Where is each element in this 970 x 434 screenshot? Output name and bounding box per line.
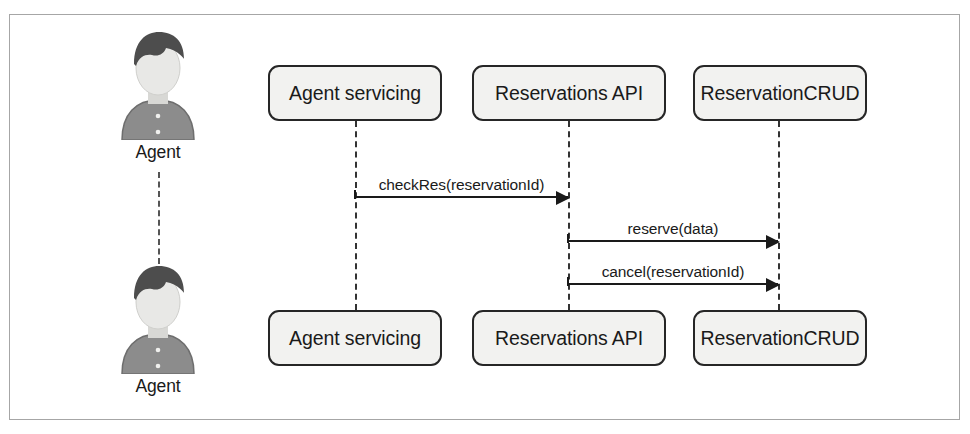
- participant-label: Reservations API: [495, 82, 643, 105]
- sequence-diagram: Agent Agent Agent servicing Reservations…: [0, 0, 970, 434]
- participant-box-reservations-api-top[interactable]: Reservations API: [472, 65, 666, 121]
- message-label: cancel(reservationId): [568, 263, 778, 281]
- message-label: checkRes(reservationId): [355, 176, 568, 194]
- participant-box-agent-servicing-top[interactable]: Agent servicing: [268, 65, 442, 121]
- actor-bottom: Agent: [110, 262, 206, 397]
- message-check-res: checkRes(reservationId): [355, 196, 568, 198]
- participant-label: ReservationCRUD: [701, 327, 860, 350]
- participant-label: Reservations API: [495, 327, 643, 350]
- participant-box-reservations-api-bottom[interactable]: Reservations API: [472, 310, 666, 366]
- person-icon: [112, 28, 204, 140]
- actor-lifeline: [158, 172, 160, 264]
- message-reserve: reserve(data): [568, 240, 778, 242]
- message-label: reserve(data): [568, 220, 778, 238]
- message-cancel: cancel(reservationId): [568, 283, 778, 285]
- participant-label: Agent servicing: [289, 82, 421, 105]
- participant-label: ReservationCRUD: [701, 82, 860, 105]
- participant-box-reservation-crud-bottom[interactable]: ReservationCRUD: [693, 310, 867, 366]
- participant-box-agent-servicing-bottom[interactable]: Agent servicing: [268, 310, 442, 366]
- participant-box-reservation-crud-top[interactable]: ReservationCRUD: [693, 65, 867, 121]
- lifeline-agent-servicing: [355, 121, 357, 310]
- actor-label: Agent: [135, 142, 180, 163]
- participant-label: Agent servicing: [289, 327, 421, 350]
- actor-top: Agent: [110, 28, 206, 163]
- actor-label: Agent: [135, 376, 180, 397]
- person-icon: [112, 262, 204, 374]
